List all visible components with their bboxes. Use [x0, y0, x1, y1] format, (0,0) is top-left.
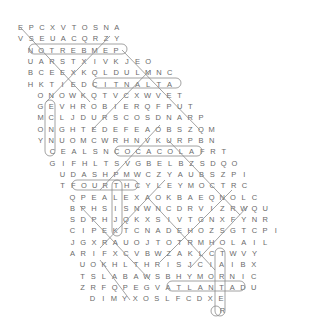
grid-letter: A [111, 22, 122, 33]
grid-letter: K [79, 67, 90, 78]
grid-letter: O [205, 271, 216, 282]
grid-letter: S [153, 214, 164, 225]
grid-letter: A [99, 192, 110, 203]
grid-letter: H [121, 180, 132, 191]
grid-letter: Q [109, 282, 120, 293]
grid-letter: J [67, 237, 78, 248]
grid-letter: N [206, 135, 217, 146]
grid-letter: Z [206, 225, 217, 236]
grid-letter: M [108, 293, 119, 304]
grid-letter: O [163, 237, 174, 248]
grid-letter: O [196, 180, 207, 191]
grid-letter: O [228, 192, 239, 203]
grid-letter: E [132, 56, 143, 67]
grid-letter: L [132, 67, 143, 78]
grid-letter: A [185, 192, 196, 203]
grid-letter: X [68, 67, 79, 78]
grid-letter: Y [164, 169, 175, 180]
grid-letter: J [184, 259, 195, 270]
grid-letter: Q [218, 158, 229, 169]
grid-letter: X [110, 248, 121, 259]
grid-letter: D [111, 67, 122, 78]
grid-letter: I [110, 203, 121, 214]
grid-letter: T [174, 90, 185, 101]
grid-letter: O [165, 146, 176, 157]
grid-letter: N [249, 214, 260, 225]
grid-letter: J [110, 214, 121, 225]
grid-letter: O [79, 22, 90, 33]
grid-letter: P [185, 135, 196, 146]
grid-letter: A [142, 192, 153, 203]
grid-letter: R [90, 33, 101, 44]
grid-letter: H [100, 169, 111, 180]
grid-letter: A [68, 146, 79, 157]
grid-letter: B [99, 101, 110, 112]
grid-letter: V [238, 248, 249, 259]
grid-letter: T [101, 158, 112, 169]
grid-letter: R [131, 101, 142, 112]
grid-letter: F [153, 101, 164, 112]
grid-letter: A [164, 79, 175, 90]
grid-letter: O [195, 225, 206, 236]
grid-letter: S [90, 146, 101, 157]
grid-letter: R [217, 305, 228, 316]
grid-letter: E [68, 79, 79, 90]
grid-letter: C [111, 146, 122, 157]
grid-letter: Z [153, 169, 164, 180]
grid-letter: O [35, 90, 46, 101]
grid-letter: A [238, 237, 249, 248]
grid-letter: U [163, 135, 174, 146]
grid-letter: O [78, 180, 89, 191]
grid-letter: F [121, 124, 132, 135]
grid-letter: A [153, 225, 164, 236]
grid-letter: E [99, 225, 110, 236]
grid-letter: C [249, 225, 260, 236]
grid-letter: A [78, 169, 89, 180]
grid-letter: E [164, 180, 175, 191]
grid-letter: F [197, 146, 208, 157]
grid-letter: T [57, 180, 68, 191]
grid-letter: Q [249, 203, 260, 214]
grid-letter: F [99, 248, 110, 259]
grid-letter: R [88, 282, 99, 293]
grid-letter: M [78, 135, 89, 146]
grid-letter: D [163, 225, 174, 236]
grid-letter: S [174, 124, 185, 135]
grid-letter: U [248, 282, 259, 293]
grid-letter: I [270, 225, 281, 236]
grid-letter: G [47, 158, 58, 169]
grid-letter: A [132, 79, 143, 90]
grid-letter: L [143, 79, 154, 90]
grid-letter: F [68, 158, 79, 169]
grid-letter: E [131, 282, 142, 293]
grid-letter: S [142, 112, 153, 123]
grid-letter: M [35, 112, 46, 123]
grid-letter: Y [35, 135, 46, 146]
grid-letter: N [131, 203, 142, 214]
grid-letter: X [47, 22, 58, 33]
grid-letter: I [88, 248, 99, 259]
grid-letter: O [229, 158, 240, 169]
grid-letter: C [239, 180, 250, 191]
grid-letter: G [228, 225, 239, 236]
grid-letter: A [58, 33, 69, 44]
grid-letter: C [143, 169, 154, 180]
grid-letter: W [132, 169, 143, 180]
grid-letter: U [89, 112, 100, 123]
grid-letter: T [174, 237, 185, 248]
grid-letter: D [87, 293, 98, 304]
grid-letter: E [89, 124, 100, 135]
grid-letter: A [216, 259, 227, 270]
grid-letter: P [78, 192, 89, 203]
grid-letter: P [78, 203, 89, 214]
grid-letter: E [110, 124, 121, 135]
grid-letter: Y [111, 33, 122, 44]
grid-letter: T [216, 282, 227, 293]
grid-letter: U [89, 180, 100, 191]
grid-letter: Z [186, 158, 197, 169]
grid-letter: W [141, 271, 152, 282]
grid-letter: O [153, 124, 164, 135]
grid-letter: J [67, 112, 78, 123]
grid-letter: X [205, 293, 216, 304]
grid-letter: L [98, 271, 109, 282]
